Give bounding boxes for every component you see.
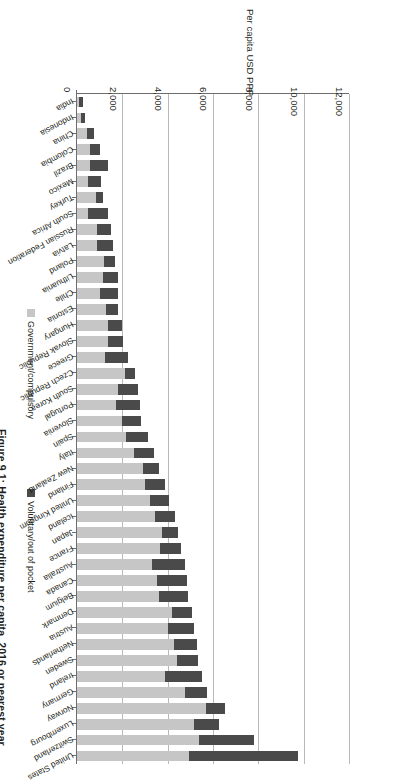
bar-row	[77, 463, 159, 474]
bar-row	[77, 97, 83, 108]
bar-segment-government	[77, 527, 162, 538]
bar-segment-voluntary	[88, 208, 108, 219]
bar-segment-government	[77, 416, 122, 427]
bar-segment-government	[77, 735, 199, 746]
bar-segment-voluntary	[96, 192, 104, 203]
bar-segment-government	[77, 448, 134, 459]
bar-segment-government	[77, 288, 100, 299]
bar-row	[77, 591, 189, 602]
bar-row	[77, 192, 104, 203]
bar-row	[77, 336, 123, 347]
bar-segment-government	[77, 240, 97, 251]
bar-segment-voluntary	[108, 336, 122, 347]
gridline	[304, 94, 305, 764]
bar-segment-voluntary	[108, 320, 122, 331]
bar-segment-voluntary	[106, 304, 118, 315]
bar-row	[77, 687, 207, 698]
bar-row	[77, 113, 85, 124]
bar-segment-government	[77, 368, 125, 379]
bar-row	[77, 256, 115, 267]
bar-segment-voluntary	[79, 97, 84, 108]
bar-row	[77, 160, 109, 171]
bar-row	[77, 304, 118, 315]
bar-segment-voluntary	[157, 575, 187, 586]
bar-segment-voluntary	[185, 687, 208, 698]
bar-segment-voluntary	[87, 128, 95, 139]
bar-row	[77, 751, 298, 762]
category-label: Chile	[54, 288, 76, 306]
bar-segment-government	[77, 655, 177, 666]
bar-segment-voluntary	[100, 288, 119, 299]
bar-segment-government	[77, 639, 174, 650]
bar-segment-government	[77, 192, 96, 203]
bar-segment-voluntary	[159, 591, 189, 602]
bar-segment-voluntary	[116, 400, 140, 411]
value-tick-label: 4,000	[153, 87, 164, 111]
bar-row	[77, 240, 113, 251]
bar-segment-government	[77, 703, 206, 714]
bar-segment-voluntary	[174, 639, 197, 650]
bar-segment-government	[77, 511, 155, 522]
bar-row	[77, 352, 128, 363]
bar-row	[77, 176, 101, 187]
bar-row	[77, 543, 181, 554]
bar-segment-government	[77, 543, 160, 554]
bar-segment-voluntary	[172, 607, 192, 618]
gridline	[213, 94, 214, 764]
bar-segment-government	[77, 384, 118, 395]
bar-segment-voluntary	[177, 655, 198, 666]
value-axis-title: Per capita USD PPP	[245, 9, 256, 96]
value-tick-label: 0	[63, 87, 74, 92]
bar-row	[77, 384, 138, 395]
bar-row	[77, 623, 194, 634]
bar-row	[77, 144, 100, 155]
bar-segment-government	[77, 432, 126, 443]
category-label: India	[55, 97, 76, 114]
bar-segment-government	[77, 256, 104, 267]
bar-row	[77, 272, 118, 283]
bar-segment-voluntary	[165, 671, 201, 682]
bar-segment-government	[77, 591, 159, 602]
bar-row	[77, 703, 225, 714]
plot-area	[77, 94, 349, 764]
bar-segment-government	[77, 400, 116, 411]
category-label: Italy	[57, 448, 75, 464]
bar-segment-voluntary	[105, 352, 128, 363]
bar-segment-voluntary	[81, 113, 85, 124]
value-tick-label: 6,000	[199, 87, 210, 111]
bar-segment-voluntary	[206, 703, 224, 714]
bar-row	[77, 559, 185, 570]
bar-row	[77, 432, 148, 443]
bar-row	[77, 575, 187, 586]
bar-segment-voluntary	[104, 256, 115, 267]
bar-row	[77, 416, 141, 427]
bar-row	[77, 735, 254, 746]
bar-segment-government	[77, 607, 172, 618]
bar-segment-government	[77, 304, 106, 315]
bar-segment-voluntary	[152, 559, 185, 570]
category-axis-labels: United StatesSwitzerlandLuxembourgNorway…	[0, 94, 73, 764]
bar-row	[77, 128, 94, 139]
bar-segment-government	[77, 479, 145, 490]
bar-row	[77, 479, 165, 490]
bar-segment-voluntary	[160, 543, 181, 554]
bar-segment-voluntary	[88, 176, 101, 187]
bar-segment-government	[77, 463, 143, 474]
bar-row	[77, 607, 192, 618]
value-tick-label: 12,000	[335, 87, 346, 116]
bar-segment-voluntary	[103, 272, 118, 283]
bar-segment-voluntary	[189, 751, 298, 762]
bar-segment-government	[77, 224, 97, 235]
bar-segment-government	[77, 559, 152, 570]
bar-segment-government	[77, 671, 165, 682]
bar-segment-voluntary	[97, 240, 113, 251]
bar-segment-voluntary	[122, 416, 141, 427]
bar-row	[77, 671, 202, 682]
bar-segment-voluntary	[125, 368, 135, 379]
bar-segment-government	[77, 97, 79, 108]
value-tick-label: 10,000	[289, 87, 300, 116]
bar-segment-voluntary	[118, 384, 138, 395]
bar-row	[77, 511, 175, 522]
bar-segment-government	[77, 719, 194, 730]
